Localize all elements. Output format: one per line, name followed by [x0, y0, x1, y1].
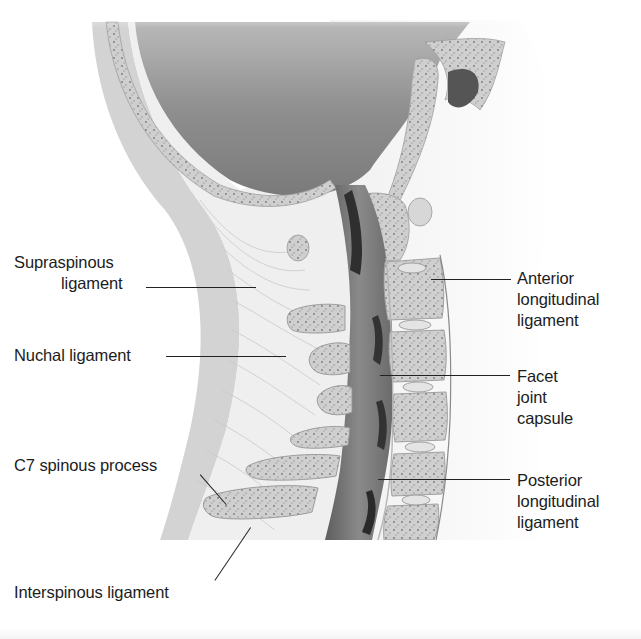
label-line: ligament	[14, 273, 214, 294]
atlas-anterior-arch	[408, 198, 432, 226]
label-line: longitudinal	[517, 491, 599, 512]
label-nuchal-ligament: Nuchal ligament	[14, 345, 131, 366]
anatomy-figure: Supraspinous ligament Nuchal ligament C7…	[0, 0, 641, 639]
leader-supraspinous	[146, 287, 256, 288]
label-line: ligament	[517, 512, 599, 533]
label-line: longitudinal	[517, 289, 599, 310]
leader-posterior	[378, 479, 510, 480]
label-line: Posterior	[517, 470, 599, 491]
label-line: C7 spinous process	[14, 456, 157, 474]
label-line: capsule	[517, 408, 573, 429]
label-line: Nuchal ligament	[14, 346, 131, 364]
label-line: Supraspinous	[14, 252, 214, 273]
leader-anterior	[431, 279, 511, 280]
label-line: Interspinous ligament	[14, 583, 169, 601]
leader-nuchal	[166, 356, 286, 357]
label-anterior-longitudinal-ligament: Anterior longitudinal ligament	[517, 268, 599, 331]
label-line: Facet	[517, 366, 573, 387]
label-facet-joint-capsule: Facet joint capsule	[517, 366, 573, 429]
label-line: joint	[517, 387, 573, 408]
leader-facet	[380, 375, 510, 376]
atlas-posterior-arch	[287, 235, 309, 261]
caption-cutoff	[0, 628, 641, 639]
label-line: ligament	[517, 310, 599, 331]
label-line: Anterior	[517, 268, 599, 289]
label-c7-spinous-process: C7 spinous process	[14, 455, 157, 476]
label-posterior-longitudinal-ligament: Posterior longitudinal ligament	[517, 470, 599, 533]
label-interspinous-ligament: Interspinous ligament	[14, 582, 169, 603]
